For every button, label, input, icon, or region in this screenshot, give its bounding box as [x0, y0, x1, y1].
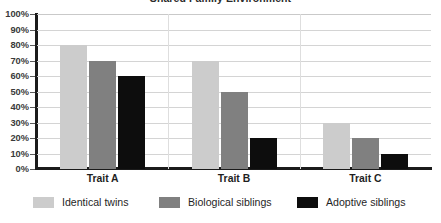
legend-swatch — [297, 197, 318, 208]
legend-label: Identical twins — [62, 196, 129, 208]
y-axis-tick-label: 30% — [0, 118, 29, 128]
y-axis-tick-label: 80% — [0, 40, 29, 50]
y-axis-tick — [30, 76, 35, 77]
y-axis-tick — [30, 14, 35, 15]
bar — [323, 123, 350, 170]
gridline — [37, 14, 431, 15]
gridline — [37, 30, 431, 31]
gridline — [37, 45, 431, 46]
bar — [250, 138, 277, 169]
y-axis-tick — [30, 154, 35, 155]
x-axis-category-label: Trait A — [87, 173, 119, 184]
legend-swatch — [33, 197, 54, 208]
legend-swatch — [159, 197, 180, 208]
legend-item: Identical twins — [33, 196, 129, 208]
y-axis-tick — [30, 61, 35, 62]
y-axis-tick — [30, 107, 35, 108]
y-axis-tick-label: 0% — [0, 164, 29, 174]
category-separator — [168, 14, 169, 169]
bar — [381, 154, 408, 170]
chart-legend: Identical twinsBiological siblingsAdopti… — [0, 196, 441, 218]
y-axis-tick-label: 60% — [0, 71, 29, 81]
y-axis-tick — [30, 30, 35, 31]
bar — [60, 45, 87, 169]
y-axis-tick — [30, 169, 35, 170]
bar — [352, 138, 379, 169]
bar — [192, 61, 219, 170]
y-axis-tick — [30, 123, 35, 124]
bar — [221, 92, 248, 170]
category-separator — [300, 14, 301, 169]
y-axis-tick — [30, 45, 35, 46]
legend-label: Adoptive siblings — [326, 196, 406, 208]
x-axis-category-label: Trait B — [218, 173, 250, 184]
bar — [118, 76, 145, 169]
x-axis-category-label: Trait C — [349, 173, 381, 184]
chart-title: Shared Family Environment — [0, 0, 441, 4]
y-axis-tick-label: 20% — [0, 133, 29, 143]
y-axis-tick-label: 50% — [0, 87, 29, 97]
legend-item: Biological siblings — [159, 196, 272, 208]
y-axis-tick-label: 100% — [0, 9, 29, 19]
y-axis-tick-label: 70% — [0, 56, 29, 66]
bar-chart: Shared Family Environment 0%10%20%30%40%… — [0, 0, 441, 223]
y-axis-tick — [30, 92, 35, 93]
bar — [89, 61, 116, 170]
y-axis-tick — [30, 138, 35, 139]
plot-area — [37, 14, 431, 169]
legend-label: Biological siblings — [188, 196, 272, 208]
legend-item: Adoptive siblings — [297, 196, 406, 208]
y-axis-tick-label: 40% — [0, 102, 29, 112]
y-axis-tick-label: 10% — [0, 149, 29, 159]
y-axis-tick-label: 90% — [0, 25, 29, 35]
